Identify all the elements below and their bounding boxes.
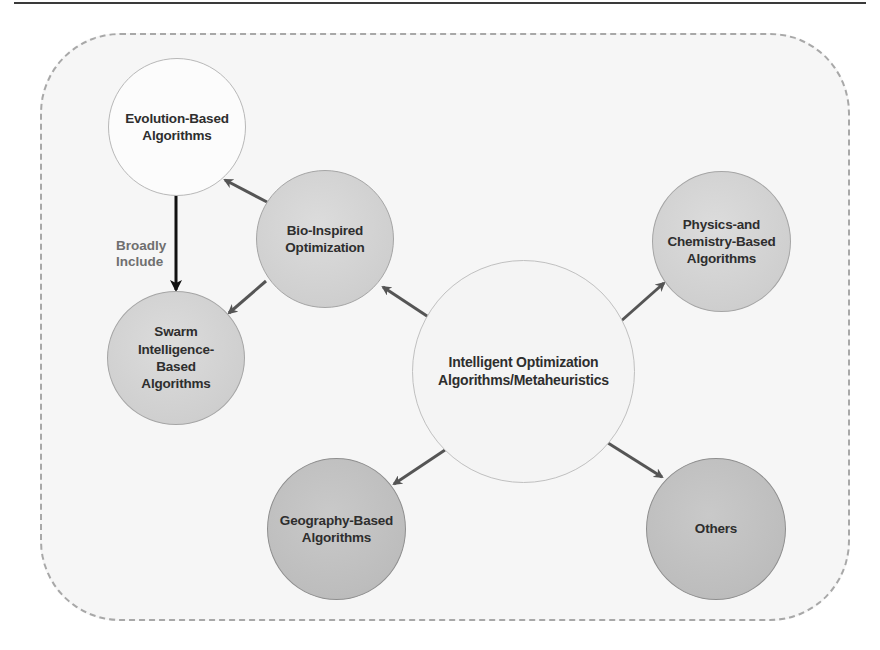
edge-center-geography: [394, 450, 445, 484]
node-others: Others: [646, 458, 786, 600]
node-label: Geography-Based Algorithms: [280, 512, 393, 547]
node-label: Swarm Intelligence- Based Algorithms: [138, 323, 214, 392]
edge-bio-evolution: [225, 180, 267, 202]
node-label: Intelligent Optimization Algorithms/Meta…: [438, 354, 609, 390]
node-intelligent-optimization-algorithms: Intelligent Optimization Algorithms/Meta…: [412, 260, 635, 483]
node-swarm-intelligence-based-algorithms: Swarm Intelligence- Based Algorithms: [107, 291, 245, 425]
node-label: Physics-and Chemistry-Based Algorithms: [667, 216, 775, 268]
node-evolution-based-algorithms: Evolution-Based Algorithms: [108, 58, 246, 196]
edge-center-physics: [620, 283, 664, 322]
edge-bio-swarm: [229, 281, 266, 313]
node-label: Bio-Inspired Optimization: [285, 222, 364, 257]
node-label: Others: [695, 520, 737, 537]
node-bio-inspired-optimization: Bio-Inspired Optimization: [256, 170, 394, 308]
edge-center-bio: [383, 287, 430, 318]
node-physics-chemistry-based-algorithms: Physics-and Chemistry-Based Algorithms: [652, 171, 791, 312]
node-geography-based-algorithms: Geography-Based Algorithms: [267, 458, 406, 600]
edge-label-broadly-include: Broadly Include: [116, 238, 166, 270]
node-label: Evolution-Based Algorithms: [125, 110, 229, 145]
edge-center-others: [608, 443, 662, 477]
